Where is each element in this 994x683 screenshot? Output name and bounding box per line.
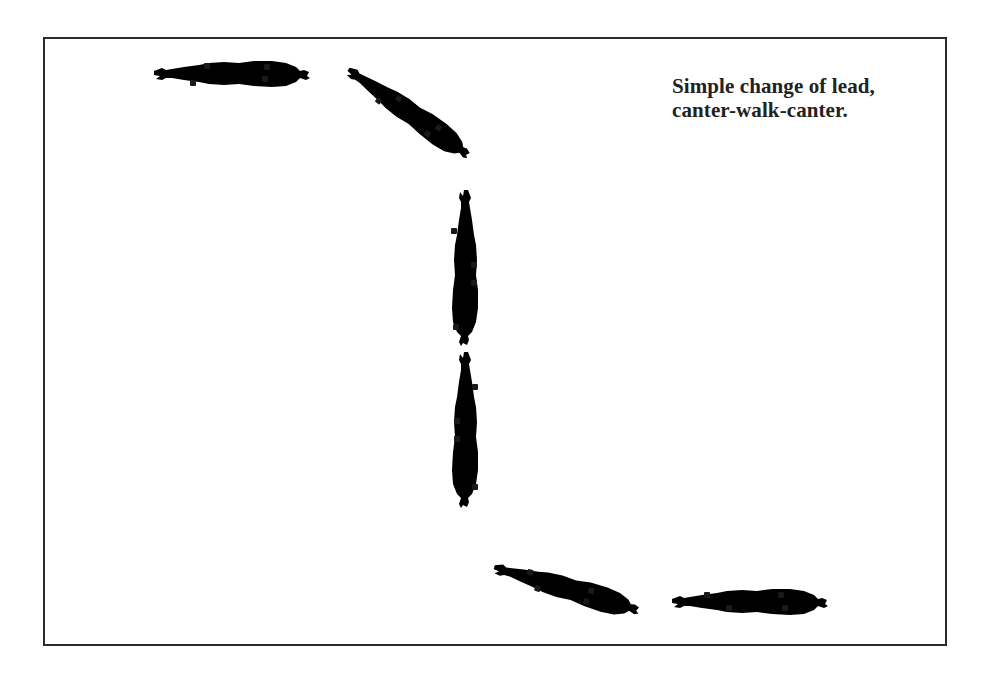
hoof-marker	[190, 80, 196, 86]
hoof-marker	[704, 592, 710, 598]
hoof-marker	[472, 384, 478, 390]
horse-2-canter	[341, 60, 477, 165]
horse-sequence-illustration	[0, 0, 994, 683]
hoof-marker	[454, 418, 460, 424]
hoof-marker	[726, 605, 732, 611]
horse-5-canter	[491, 556, 643, 622]
hoof-marker	[471, 280, 477, 286]
hoof-marker	[451, 228, 457, 234]
hoof-marker	[454, 436, 460, 442]
hoof-marker	[778, 592, 784, 598]
hoof-marker	[453, 324, 459, 330]
hoof-marker	[472, 484, 478, 490]
hoof-marker	[471, 262, 477, 268]
hoof-marker	[264, 64, 270, 70]
horse-3-walk	[451, 190, 478, 346]
hoof-marker	[782, 605, 788, 611]
hoof-marker	[262, 76, 268, 82]
horse-1-canter	[154, 61, 310, 87]
hoof-marker	[204, 63, 210, 69]
horse-4-walk	[452, 352, 478, 508]
horse-6-canter	[672, 589, 828, 615]
